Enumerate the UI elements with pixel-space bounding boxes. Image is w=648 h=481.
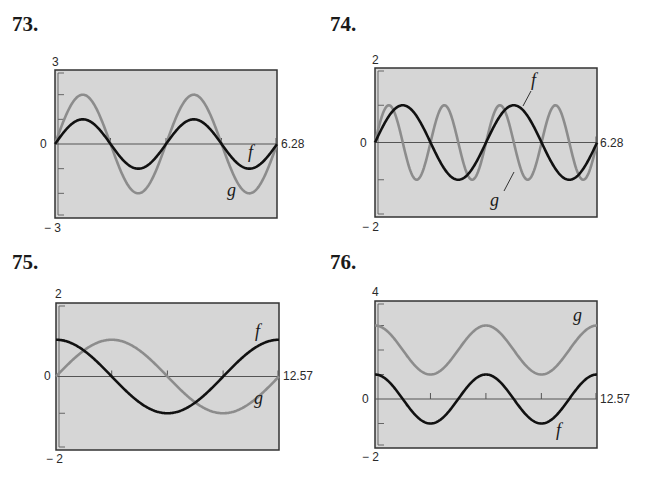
y-max-label-76: 4 [372, 285, 379, 299]
y-min-label-76: − 2 [362, 450, 379, 464]
y-min-label-75: − 2 [46, 452, 63, 466]
curve-label-g-75: g [254, 388, 263, 409]
curve-label-f-75: f [255, 321, 260, 342]
graph-76 [375, 301, 597, 448]
curve-label-g-76: g [573, 305, 582, 326]
y-max-label-75: 2 [55, 287, 62, 301]
y-zero-label-76: 0 [362, 392, 369, 406]
y-zero-label-75: 0 [44, 369, 51, 383]
problem-number-75: 75. [12, 250, 38, 275]
problem-number-76: 76. [330, 250, 356, 275]
graph-75 [56, 303, 279, 450]
curve-label-f-76: f [556, 420, 561, 441]
x-max-label-76: 12.57 [600, 392, 630, 406]
x-max-label-75: 12.57 [283, 369, 313, 383]
